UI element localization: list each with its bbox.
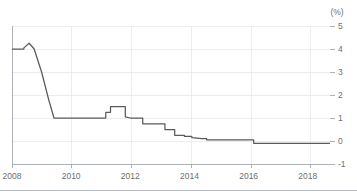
y-tick-label-5: 5	[338, 21, 343, 31]
y-tick-label-2: 2	[338, 90, 343, 100]
y-tick-label-0: 0	[338, 136, 343, 146]
y-tick-label-3: 3	[338, 67, 343, 77]
x-tick-label-2008: 2008	[3, 171, 22, 181]
chart-container: (%) -1012345 200820102012201420162018	[0, 0, 357, 196]
line-chart: (%) -1012345 200820102012201420162018	[0, 0, 357, 196]
x-tick-label-2012: 2012	[121, 171, 140, 181]
y-tick-label-minus1: -1	[338, 159, 346, 169]
x-tick-label-2018: 2018	[298, 171, 317, 181]
x-tick-label-2016: 2016	[239, 171, 258, 181]
y-axis-ticks	[330, 26, 335, 164]
x-axis-ticks	[12, 164, 311, 168]
x-axis-tick-labels: 200820102012201420162018	[3, 171, 318, 181]
y-tick-label-1: 1	[338, 113, 343, 123]
y-axis-tick-labels: -1012345	[338, 21, 346, 169]
x-tick-label-2014: 2014	[180, 171, 199, 181]
y-axis-unit-label: (%)	[330, 7, 343, 17]
gridlines-horizontal	[12, 26, 330, 141]
x-tick-label-2010: 2010	[62, 171, 81, 181]
y-tick-label-4: 4	[338, 44, 343, 54]
series-line-policy-rate	[12, 43, 330, 143]
